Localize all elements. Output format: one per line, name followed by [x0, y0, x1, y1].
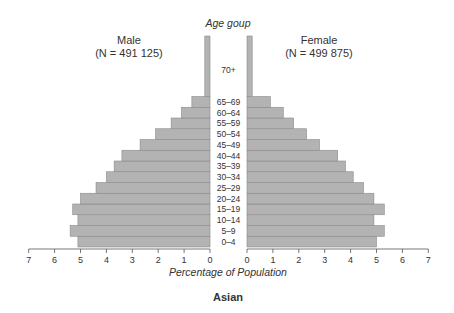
age-group-label: 50–54 — [217, 129, 241, 139]
male-bar — [122, 150, 210, 161]
x-tick-label: 6 — [52, 255, 57, 265]
female-bar — [247, 183, 364, 194]
male-label: Male — [117, 34, 141, 46]
male-bar — [96, 183, 210, 194]
x-tick-label: 2 — [296, 255, 301, 265]
male-bar — [156, 129, 210, 140]
male-count: (N = 491 125) — [95, 47, 163, 59]
age-group-label: 70+ — [221, 65, 235, 75]
x-tick-label: 4 — [104, 255, 109, 265]
female-bar — [247, 36, 252, 97]
female-bar — [247, 215, 374, 226]
female-bars — [247, 36, 384, 247]
age-group-label: 65–69 — [217, 97, 241, 107]
female-bar — [247, 236, 377, 247]
female-label: Female — [301, 34, 338, 46]
x-tick-label: 6 — [400, 255, 405, 265]
population-pyramid-chart: Age goup Male (N = 491 125) Female (N = … — [0, 0, 454, 313]
x-tick-label: 2 — [156, 255, 161, 265]
age-group-label: 25–29 — [217, 183, 241, 193]
male-bars — [70, 36, 210, 247]
male-bar — [78, 236, 210, 247]
age-group-label: 60–64 — [217, 108, 241, 118]
male-bar — [81, 193, 211, 204]
male-bar — [182, 107, 210, 118]
male-bar — [171, 118, 210, 129]
x-tick-label: 1 — [270, 255, 275, 265]
x-axis-title: Percentage of Population — [169, 266, 287, 278]
x-tick-label: 7 — [26, 255, 31, 265]
age-group-label: 20–24 — [217, 194, 241, 204]
female-bar — [247, 140, 320, 151]
female-bar — [247, 204, 384, 215]
x-tick-label: 5 — [374, 255, 379, 265]
age-group-label: 30–34 — [217, 172, 241, 182]
female-count: (N = 499 875) — [285, 47, 353, 59]
male-bar — [205, 36, 210, 97]
age-group-labels: 0–45–910–1415–1920–2425–2930–3435–3940–4… — [217, 65, 241, 247]
age-group-label: 40–44 — [217, 151, 241, 161]
female-x-axis: 01234567 — [244, 249, 430, 265]
female-bar — [247, 193, 374, 204]
x-tick-label: 4 — [348, 255, 353, 265]
male-bar — [73, 204, 210, 215]
x-tick-label: 5 — [78, 255, 83, 265]
age-group-label: 5–9 — [221, 226, 235, 236]
age-group-label: 45–49 — [217, 140, 241, 150]
age-group-label: 0–4 — [221, 237, 235, 247]
female-bar — [247, 161, 345, 172]
male-bar — [70, 226, 210, 237]
male-bar — [78, 215, 210, 226]
male-bar — [114, 161, 210, 172]
female-bar — [247, 150, 338, 161]
male-x-axis: 01234567 — [26, 249, 212, 265]
female-bar — [247, 226, 384, 237]
male-bar — [192, 97, 210, 108]
age-group-label: 35–39 — [217, 161, 241, 171]
x-tick-label: 3 — [130, 255, 135, 265]
male-bar — [140, 140, 210, 151]
age-group-label: 10–14 — [217, 215, 241, 225]
chart-title: Asian — [213, 291, 243, 303]
age-group-label: 15–19 — [217, 204, 241, 214]
female-bar — [247, 97, 270, 108]
female-bar — [247, 118, 294, 129]
female-bar — [247, 129, 307, 140]
x-tick-label: 7 — [426, 255, 431, 265]
x-tick-label: 0 — [244, 255, 249, 265]
female-bar — [247, 172, 353, 183]
age-group-label: 55–59 — [217, 118, 241, 128]
x-tick-label: 0 — [207, 255, 212, 265]
female-bar — [247, 107, 283, 118]
center-axis-label: Age goup — [205, 17, 251, 29]
male-bar — [106, 172, 210, 183]
x-tick-label: 1 — [182, 255, 187, 265]
x-tick-label: 3 — [322, 255, 327, 265]
